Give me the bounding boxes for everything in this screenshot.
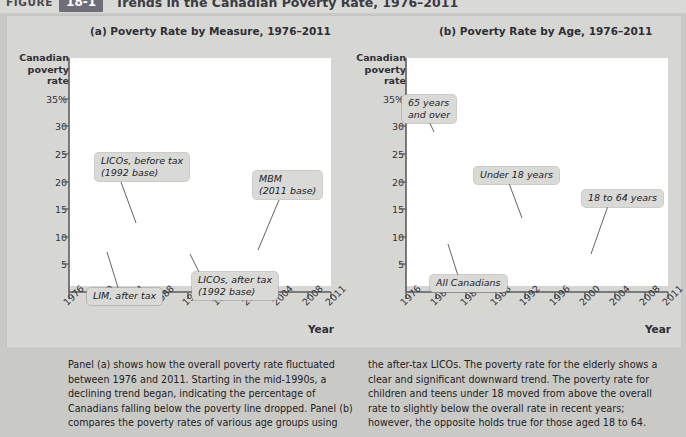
callout-65-and-over: 65 years and over [402, 95, 456, 123]
chart-a-x-axis-title: Year [308, 323, 334, 335]
chart-poverty-rate-by-age: Canadian poverty rate 35% 30 25 20 15 10… [344, 42, 681, 337]
caption-left-column: Panel (a) shows how the overall poverty … [68, 358, 360, 431]
callout-licos-after-tax-line1: LICOs, after tax [198, 274, 272, 285]
callout-lim-after-tax: LIM, after tax [87, 288, 162, 305]
callout-licos-after-tax: LICOs, after tax (1992 base) [192, 272, 278, 300]
callout-all-canadians-line1: All Canadians [436, 277, 501, 288]
callout-mbm-line2: (2011 base) [259, 185, 316, 196]
callout-65-and-over-line1: 65 years [408, 97, 449, 108]
callout-lim-after-tax-line1: LIM, after tax [93, 290, 156, 301]
figure-caption: Panel (a) shows how the overall poverty … [0, 352, 686, 437]
chart-b-x-axis-title: Year [645, 323, 671, 335]
panel-b-title: (b) Poverty Rate by Age, 1976–2011 [439, 25, 652, 37]
callout-mbm: MBM (2011 base) [253, 171, 322, 199]
callout-65-and-over-line2: and over [408, 109, 450, 120]
callout-all-canadians: All Canadians [430, 275, 507, 292]
callout-licos-before-tax-line2: (1992 base) [101, 167, 158, 178]
figure-panel: (a) Poverty Rate by Measure, 1976–2011 (… [6, 15, 682, 349]
caption-right-column: the after-tax LICOs. The poverty rate fo… [368, 358, 668, 431]
figure-header: FIGURE 18-1 Trends in the Canadian Pover… [0, 0, 686, 13]
callout-18-to-64-line1: 18 to 64 years [588, 192, 657, 203]
panel-a-title: (a) Poverty Rate by Measure, 1976–2011 [90, 25, 331, 37]
chart-a-y-tick-labels: 35% 30 25 20 15 10 5 [7, 42, 67, 307]
callout-under-18-line1: Under 18 years [480, 169, 553, 180]
callout-licos-before-tax: LICOs, before tax (1992 base) [95, 153, 189, 181]
callout-under-18: Under 18 years [474, 167, 559, 184]
callout-licos-before-tax-line1: LICOs, before tax [101, 155, 183, 166]
figure-word: FIGURE [6, 0, 53, 8]
chart-b-y-tick-labels: 35% 30 25 20 15 10 5 [344, 42, 404, 307]
callout-licos-after-tax-line2: (1992 base) [198, 286, 255, 297]
figure-title: Trends in the Canadian Poverty Rate, 197… [115, 0, 458, 10]
callout-mbm-line1: MBM [259, 173, 282, 184]
callout-18-to-64: 18 to 64 years [582, 190, 663, 207]
figure-number-badge: 18-1 [59, 0, 103, 12]
chart-b-x-tick-labels: 1976 1980 1984 1988 1992 1996 2000 2004 … [390, 292, 686, 332]
chart-poverty-rate-by-measure: Canadian poverty rate 35% 30 25 20 15 10… [7, 42, 344, 337]
